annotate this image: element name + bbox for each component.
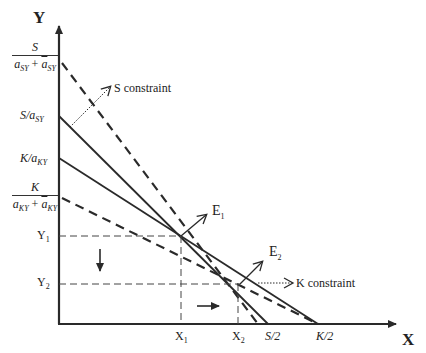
x-axis-label: X <box>402 330 414 350</box>
y-tick-y2: Y2 <box>37 275 50 291</box>
s-constraint-dashed-line <box>62 63 258 324</box>
s-constraint-shift-arrow <box>70 87 110 127</box>
s-constraint-solid-line <box>59 116 268 324</box>
y-tick-s-dashed-intercept: S aSY + aSY <box>12 40 58 76</box>
x-tick-k-half: K/2 <box>316 329 333 344</box>
equilibrium-e2-label: E2 <box>269 244 282 262</box>
y-tick-k-dashed-intercept: K aKY + aKY <box>12 180 58 216</box>
y-axis-label: Y <box>33 8 45 28</box>
x-tick-s-half: S/2 <box>265 329 280 344</box>
x-tick-x2: X2 <box>232 329 245 345</box>
y-tick-s-solid-intercept: S/aSY <box>20 108 44 124</box>
y-tick-k-solid-intercept: K/aKY <box>20 151 47 167</box>
k-constraint-label: K constraint <box>296 276 355 291</box>
k-constraint-solid-line <box>59 158 318 324</box>
y-tick-y1: Y1 <box>37 228 50 244</box>
equilibrium-e1-label: E1 <box>212 203 225 221</box>
diagram-canvas <box>0 0 426 353</box>
s-constraint-label: S constraint <box>114 81 171 96</box>
x-tick-x1: X1 <box>175 329 188 345</box>
